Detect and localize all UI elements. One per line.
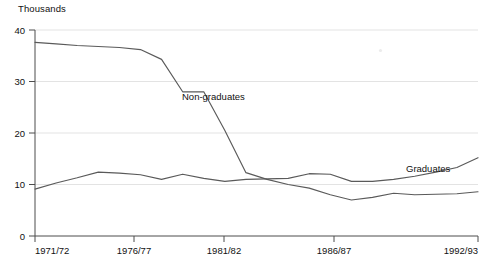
y-tick-label-0: 0	[20, 231, 25, 242]
y-axis: 40 30 20 10 0	[14, 25, 35, 242]
chart-container: Thousands 40 30 20 10 0	[0, 0, 488, 261]
series-lines	[35, 42, 478, 200]
series-label-graduates: Graduates	[406, 163, 451, 174]
x-tick-label-1976-77: 1976/77	[117, 245, 151, 256]
x-tick-label-1971-72: 1971/72	[35, 245, 69, 256]
gridlines	[35, 30, 478, 185]
x-tick-label-1986-87: 1986/87	[317, 245, 351, 256]
y-tick-label-30: 30	[14, 76, 25, 87]
y-tick-label-10: 10	[14, 179, 25, 190]
line-chart-svg: 40 30 20 10 0 1971/72 1976/77 1981/82 19…	[0, 0, 488, 261]
x-axis: 1971/72 1976/77 1981/82 1986/87 1992/93	[35, 236, 478, 256]
x-tick-label-1981-82: 1981/82	[207, 245, 241, 256]
y-tick-label-40: 40	[14, 25, 25, 36]
series-label-non-graduates: Non-graduates	[182, 91, 245, 102]
y-tick-label-20: 20	[14, 128, 25, 139]
x-tick-label-1992-93: 1992/93	[444, 245, 478, 256]
scan-artifact-dot	[379, 49, 382, 52]
series-annotations: Non-graduates Graduates	[182, 91, 451, 174]
